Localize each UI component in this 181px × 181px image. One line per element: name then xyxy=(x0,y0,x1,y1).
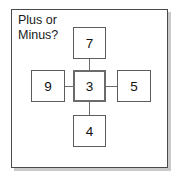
node-bottom[interactable]: 4 xyxy=(73,115,106,147)
connector-center-bottom xyxy=(89,101,90,116)
puzzle-card-canvas: Plus or Minus? 7 9 3 5 4 xyxy=(0,0,181,181)
operator-diagram: 7 9 3 5 4 xyxy=(0,0,181,181)
node-center[interactable]: 3 xyxy=(73,70,106,102)
node-left[interactable]: 9 xyxy=(31,70,65,102)
node-right[interactable]: 5 xyxy=(117,70,151,102)
node-top[interactable]: 7 xyxy=(73,27,106,59)
